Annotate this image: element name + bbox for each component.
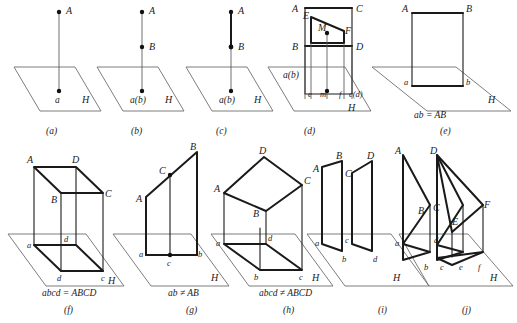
label-D-f: D	[71, 154, 80, 165]
panel-d: A C B D E F M a(b) e m f c(d) H (d)	[268, 3, 371, 137]
label-d-i: d	[373, 254, 378, 264]
label-C-d: C	[356, 3, 363, 14]
label-d2-f: d	[64, 234, 69, 244]
equation-f: abcd = ABCD	[42, 288, 96, 298]
label-d-h: d	[268, 233, 273, 243]
panel-e: A B a b H ab = AB (e)	[372, 3, 511, 137]
label-e-d: e	[308, 89, 312, 99]
label-A-d: A	[291, 3, 299, 14]
label-e-j: e	[459, 262, 463, 272]
label-A-f: A	[26, 154, 34, 165]
label-D-j: D	[429, 145, 438, 156]
label-c-f: c	[101, 273, 105, 283]
label-c-j: c	[440, 262, 444, 272]
label-A-h: A	[213, 183, 221, 194]
panel-j: A D B C E F a d b c e f H (j)	[394, 145, 513, 316]
label-C-i: C	[345, 168, 352, 179]
label-D-i: D	[366, 150, 375, 161]
point-a-marker-c	[229, 89, 233, 93]
label-A-a: A	[65, 5, 73, 16]
plane-label-a: H	[81, 94, 90, 105]
label-F-j: F	[483, 199, 491, 210]
label-D-h: D	[258, 145, 267, 156]
label-B-g: B	[190, 141, 196, 152]
label-D-d: D	[355, 41, 364, 52]
panel-f: A D B C a d d c H abcd = ABCD (f)	[8, 154, 124, 316]
caption-e: (e)	[440, 126, 451, 137]
plane-i	[307, 234, 429, 286]
caption-f: (f)	[64, 305, 73, 316]
caption-c: (c)	[216, 126, 227, 137]
inner-figure-EMF-d	[311, 17, 344, 43]
plane-label-e: H	[487, 94, 496, 105]
caption-a: (a)	[46, 126, 57, 137]
caption-j: (j)	[462, 305, 471, 316]
panel-b: A B a(b) H (b)	[97, 5, 184, 137]
label-C-h: C	[304, 175, 311, 186]
label-b-g: b	[198, 249, 202, 259]
label-E-d: E	[302, 10, 309, 21]
bottom-face-abcd-f	[34, 245, 103, 271]
equation-e: ab = AB	[414, 110, 446, 120]
label-A-j: A	[394, 145, 402, 156]
panel-a: A a H (a)	[14, 5, 101, 137]
triangle-ABa-j	[403, 155, 430, 244]
label-a-j: a	[395, 238, 399, 248]
point-a-marker-b	[140, 89, 144, 93]
label-C-g: C	[159, 165, 166, 176]
label-b-j: b	[424, 262, 428, 272]
caption-i: (i)	[378, 305, 387, 316]
label-ab-c: a(b)	[219, 95, 235, 106]
bottom-face-abcd-h	[224, 244, 302, 270]
label-C-f: C	[105, 188, 112, 199]
label-a-i: a	[315, 238, 319, 248]
equation-g: ab ≠ AB	[168, 288, 199, 298]
label-m-d: m	[320, 89, 326, 99]
label-ab-b: a(b)	[130, 95, 146, 106]
plane-label-c: H	[253, 94, 262, 105]
face-ABba-i	[322, 161, 342, 251]
label-B-b: B	[149, 41, 155, 52]
point-c-marker-g	[168, 253, 172, 257]
label-A-e: A	[401, 3, 409, 14]
label-cd-d: c(d)	[349, 89, 363, 99]
panel-c: A B a(b) H (c)	[186, 5, 273, 137]
label-C-j: C	[433, 202, 440, 213]
plane-label-i: H	[392, 272, 401, 283]
plane-label-g: H	[210, 272, 219, 283]
caption-d: (d)	[304, 126, 315, 137]
point-A-marker-a	[57, 10, 61, 14]
caption-b: (b)	[131, 126, 142, 137]
label-F-d: F	[344, 25, 352, 36]
label-B-i: B	[336, 150, 342, 161]
label-c-g: c	[167, 258, 171, 268]
label-B-h: B	[253, 208, 259, 219]
top-face-ABCD-h	[224, 157, 302, 211]
label-b-e: b	[466, 77, 470, 87]
rect-ABba-e	[412, 13, 463, 86]
point-B-marker-b	[140, 45, 144, 49]
label-B-e: B	[466, 3, 472, 14]
label-a-e: a	[404, 77, 408, 87]
caption-h: (h)	[283, 305, 294, 316]
panel-g: B C A a c b H ab ≠ AB (g)	[113, 141, 229, 316]
label-A-b: A	[148, 5, 156, 16]
point-B-marker-c	[229, 45, 234, 50]
label-a-f: a	[27, 240, 31, 250]
label-c-h: c	[299, 272, 303, 282]
label-a-a: a	[55, 95, 60, 105]
label-ab-d: a(b)	[283, 70, 299, 81]
point-C-marker-g	[168, 173, 172, 177]
label-a-g: a	[139, 249, 143, 259]
label-f-j: f	[478, 262, 482, 272]
point-A-marker-c	[229, 10, 233, 14]
label-A-g: A	[135, 193, 143, 204]
top-face-ABCD-f	[34, 167, 103, 193]
label-b-i: b	[342, 254, 346, 264]
label-B-f: B	[51, 194, 57, 205]
projection-plane-d	[305, 8, 352, 94]
plane-label-d: H	[347, 102, 356, 113]
label-A-i: A	[312, 163, 320, 174]
plane-label-h: H	[311, 272, 320, 283]
label-B-d: B	[292, 41, 298, 52]
